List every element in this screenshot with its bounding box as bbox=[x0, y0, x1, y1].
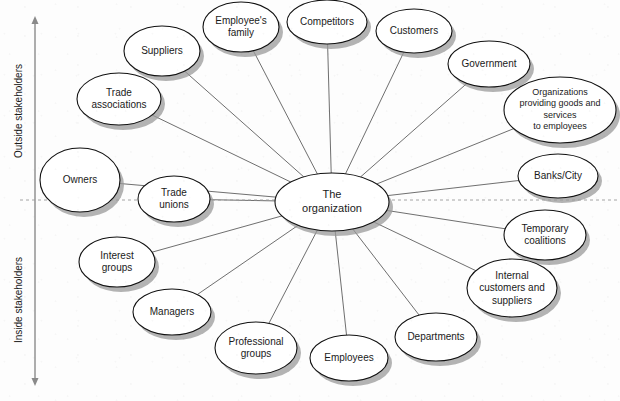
node-trade-unions[interactable]: Tradeunions bbox=[138, 176, 214, 227]
node-label-government: Government bbox=[461, 58, 516, 69]
node-label-trade-unions: Tradeunions bbox=[159, 186, 188, 210]
diagram-canvas: Outside stakeholders Inside stakeholders… bbox=[0, 0, 620, 401]
node-label-employees: Employees bbox=[324, 352, 373, 363]
node-label-owners: Owners bbox=[63, 174, 97, 185]
edge-the-organization-to-professional-groups bbox=[269, 230, 318, 323]
axis-arrow-up-icon bbox=[32, 16, 39, 24]
edge-the-organization-to-competitors bbox=[328, 44, 332, 173]
node-competitors[interactable]: Competitors bbox=[287, 0, 371, 49]
node-label-banks-city: Banks/City bbox=[534, 170, 582, 181]
node-managers[interactable]: Managers bbox=[133, 289, 215, 340]
edge-the-organization-to-customers bbox=[346, 52, 404, 174]
node-customers[interactable]: Customers bbox=[376, 9, 456, 58]
edge-the-organization-to-government bbox=[361, 83, 467, 176]
node-label-competitors: Competitors bbox=[300, 16, 354, 27]
node-internal-customers-and-suppliers[interactable]: Internalcustomers andsuppliers bbox=[467, 259, 561, 322]
edge-the-organization-to-employees bbox=[335, 231, 346, 335]
edge-the-organization-to-departments bbox=[353, 229, 419, 315]
node-label-customers: Customers bbox=[390, 25, 438, 36]
edge-the-organization-to-banks-city bbox=[388, 181, 519, 196]
node-trade-associations[interactable]: Tradeassociations bbox=[77, 73, 165, 130]
node-label-departments: Departments bbox=[407, 331, 464, 342]
node-employees-family[interactable]: Employee'sfamily bbox=[203, 2, 283, 57]
node-label-suppliers: Suppliers bbox=[141, 45, 183, 56]
node-organizations-providing-goods[interactable]: Organizationsproviding goods andservices… bbox=[504, 77, 620, 148]
axis-label-outside: Outside stakeholders bbox=[13, 64, 24, 158]
stakeholder-diagram: Outside stakeholders Inside stakeholders… bbox=[0, 0, 620, 401]
node-government[interactable]: Government bbox=[448, 41, 534, 92]
node-label-managers: Managers bbox=[150, 306, 194, 317]
node-owners[interactable]: Owners bbox=[40, 148, 124, 217]
node-the-organization[interactable]: Theorganization bbox=[275, 173, 393, 236]
node-interest-groups[interactable]: Interestgroups bbox=[79, 237, 159, 292]
node-departments[interactable]: Departments bbox=[395, 313, 481, 366]
edge-the-organization-to-temporary-coalitions bbox=[387, 210, 506, 228]
node-suppliers[interactable]: Suppliers bbox=[124, 26, 204, 81]
edge-the-organization-to-organizations-providing-goods bbox=[377, 129, 514, 184]
node-employees[interactable]: Employees bbox=[310, 335, 392, 386]
node-label-interest-groups: Interestgroups bbox=[100, 249, 134, 273]
axis-arrow-down-icon bbox=[32, 378, 39, 386]
edge-the-organization-to-trade-associations bbox=[152, 115, 291, 182]
node-banks-city[interactable]: Banks/City bbox=[518, 154, 602, 203]
node-professional-groups[interactable]: Professionalgroups bbox=[215, 322, 301, 379]
edge-the-organization-to-suppliers bbox=[185, 71, 304, 177]
node-temporary-coalitions[interactable]: Temporarycoalitions bbox=[504, 210, 590, 265]
axis-label-inside: Inside stakeholders bbox=[13, 257, 24, 343]
edge-the-organization-to-internal-customers-and-suppliers bbox=[374, 222, 476, 271]
nodes-layer: SuppliersEmployee'sfamilyCompetitorsCust… bbox=[40, 0, 620, 386]
node-label-temporary-coalitions: Temporarycoalitions bbox=[521, 222, 568, 246]
edge-the-organization-to-employees-family bbox=[253, 51, 317, 174]
